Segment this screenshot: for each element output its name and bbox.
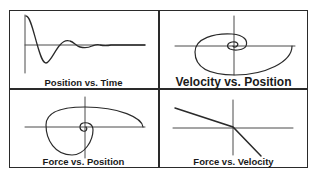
panel-title-force-vs-position: Force vs. Position: [9, 156, 158, 167]
force-vs-position-plot: [25, 97, 145, 158]
spiral-curve: [195, 34, 292, 75]
position-vs-time-plot: [25, 15, 145, 73]
force-velocity-curve: [175, 108, 261, 156]
panel-title-force-vs-velocity: Force vs. Velocity: [159, 156, 308, 167]
panel-title-velocity-vs-position: Velocity vs. Position: [159, 75, 308, 89]
damped-oscillation-curve: [26, 16, 145, 63]
panel-title-position-vs-time: Position vs. Time: [9, 77, 158, 88]
spiral-curve: [46, 107, 143, 155]
force-vs-velocity-plot: [173, 100, 293, 156]
velocity-vs-position-plot: [175, 16, 295, 75]
plots-canvas: [0, 0, 314, 179]
